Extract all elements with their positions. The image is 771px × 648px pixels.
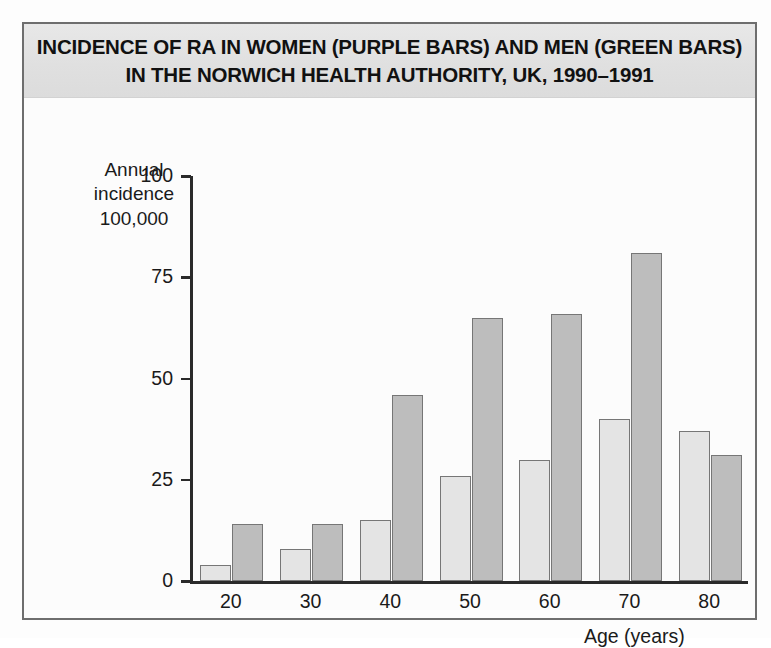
x-tick-label-80: 80 <box>698 590 720 613</box>
x-axis-line <box>190 581 748 584</box>
x-tick-label-40: 40 <box>379 590 401 613</box>
bar-40-women <box>360 520 391 581</box>
y-tick-label-25: 25 <box>151 468 173 491</box>
bar-70-women <box>599 419 630 581</box>
bar-30-men <box>312 524 343 581</box>
y-tick-50: 50 <box>181 378 191 381</box>
x-tick-label-70: 70 <box>619 590 641 613</box>
chart-title-line-2: IN THE NORWICH HEALTH AUTHORITY, UK, 199… <box>125 61 653 88</box>
x-tick-label-30: 30 <box>300 590 322 613</box>
plot-area: Annual incidence 100,000 0255075100 2030… <box>24 98 755 618</box>
x-tick-label-60: 60 <box>539 590 561 613</box>
bar-80-women <box>679 431 710 581</box>
x-tick-label-20: 20 <box>220 590 242 613</box>
x-axis-title: Age (years) <box>584 625 685 648</box>
axes: 0255075100 20304050607080 Age (years) <box>24 98 755 618</box>
bar-60-women <box>519 460 550 582</box>
bar-50-men <box>472 318 503 581</box>
bar-80-men <box>711 455 742 581</box>
figure-frame: INCIDENCE OF RA IN WOMEN (PURPLE BARS) A… <box>22 22 757 620</box>
bar-70-men <box>631 253 662 581</box>
y-tick-label-0: 0 <box>162 569 173 592</box>
bar-20-men <box>232 524 263 581</box>
y-tick-75: 75 <box>181 276 191 279</box>
x-tick-label-50: 50 <box>459 590 481 613</box>
chart-title-banner: INCIDENCE OF RA IN WOMEN (PURPLE BARS) A… <box>24 24 755 98</box>
chart-title-line-1: INCIDENCE OF RA IN WOMEN (PURPLE BARS) A… <box>37 33 742 60</box>
bar-60-men <box>551 314 582 581</box>
y-tick-100: 100 <box>181 175 191 178</box>
y-tick-0: 0 <box>181 580 191 583</box>
bar-50-women <box>440 476 471 581</box>
bar-30-women <box>280 549 311 581</box>
bar-20-women <box>200 565 231 581</box>
bar-40-men <box>392 395 423 581</box>
y-tick-25: 25 <box>181 479 191 482</box>
y-tick-label-50: 50 <box>151 367 173 390</box>
y-tick-label-75: 75 <box>151 265 173 288</box>
y-tick-label-100: 100 <box>140 164 173 187</box>
